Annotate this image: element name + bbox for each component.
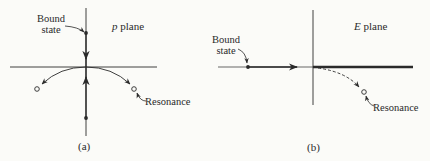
resonance-label-a: Resonance: [145, 96, 190, 107]
caption-b: (b): [307, 142, 320, 153]
resonance-point-right: [132, 87, 137, 92]
e-plane-symbol: E: [354, 20, 361, 32]
bound-state-label-b-line2: state: [208, 45, 244, 56]
bound-state-point: [84, 31, 88, 35]
e-plane-label: E plane: [354, 21, 387, 32]
p-plane-label: p plane: [112, 21, 144, 32]
bound-state-label-b-line1: Bound: [208, 34, 244, 45]
e-plane-word: plane: [363, 20, 387, 32]
caption-a: (a): [78, 141, 90, 152]
p-plane-word: plane: [120, 20, 144, 32]
bound-state-label-a-line1: Bound: [33, 13, 69, 24]
bound-state-label-b: Bound state: [208, 34, 244, 56]
virtual-state-point: [84, 116, 88, 120]
p-plane-symbol: p: [112, 20, 118, 32]
bound-state-label-a: Bound state: [33, 13, 69, 35]
resonance-label-b: Resonance: [373, 102, 418, 113]
resonance-trajectory-b: [318, 68, 359, 87]
resonance-point-b: [362, 90, 367, 95]
bound-state-point-b: [246, 65, 250, 69]
bound-state-label-a-line2: state: [33, 24, 69, 35]
resonance-trajectory-left: [42, 67, 86, 84]
resonance-trajectory-right: [86, 67, 130, 84]
resonance-point-left: [35, 87, 40, 92]
